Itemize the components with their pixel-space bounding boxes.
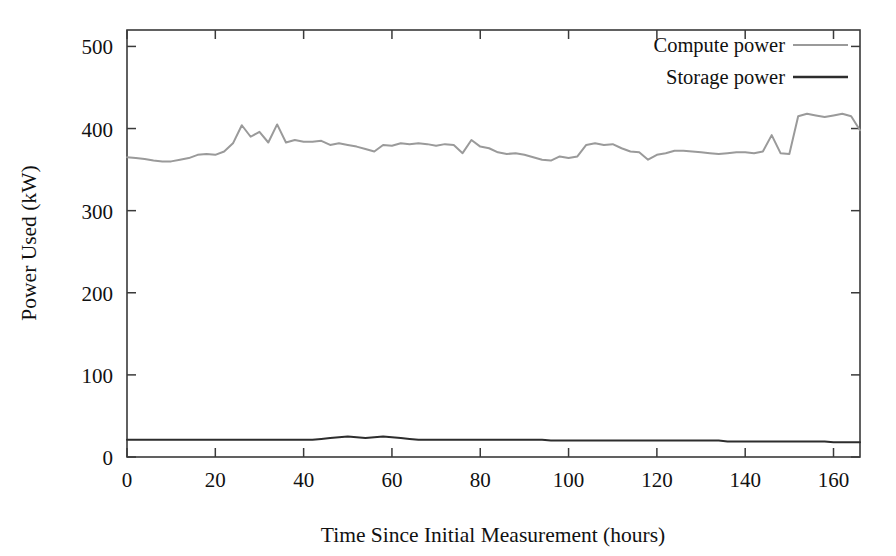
y-tick-label: 100 [82,364,114,388]
x-tick-label: 60 [381,468,402,492]
y-tick-label: 500 [82,35,114,59]
x-tick-label: 20 [205,468,226,492]
y-axis-title: Power Used (kW) [17,165,41,320]
x-tick-label: 160 [818,468,850,492]
x-tick-label: 40 [293,468,314,492]
x-tick-label: 140 [729,468,761,492]
y-tick-label: 300 [82,200,114,224]
x-tick-label: 100 [553,468,585,492]
power-usage-line-chart: 020406080100120140160 0100200300400500 T… [0,0,896,556]
x-tick-label: 120 [641,468,673,492]
legend-label: Storage power [666,66,785,89]
legend-label: Compute power [653,34,785,57]
y-tick-label: 200 [82,282,114,306]
x-tick-label: 80 [470,468,491,492]
x-tick-label: 0 [122,468,133,492]
y-tick-label: 400 [82,118,114,142]
chart-container: 020406080100120140160 0100200300400500 T… [0,0,896,556]
y-tick-label: 0 [103,446,114,470]
x-axis-title: Time Since Initial Measurement (hours) [321,523,665,547]
